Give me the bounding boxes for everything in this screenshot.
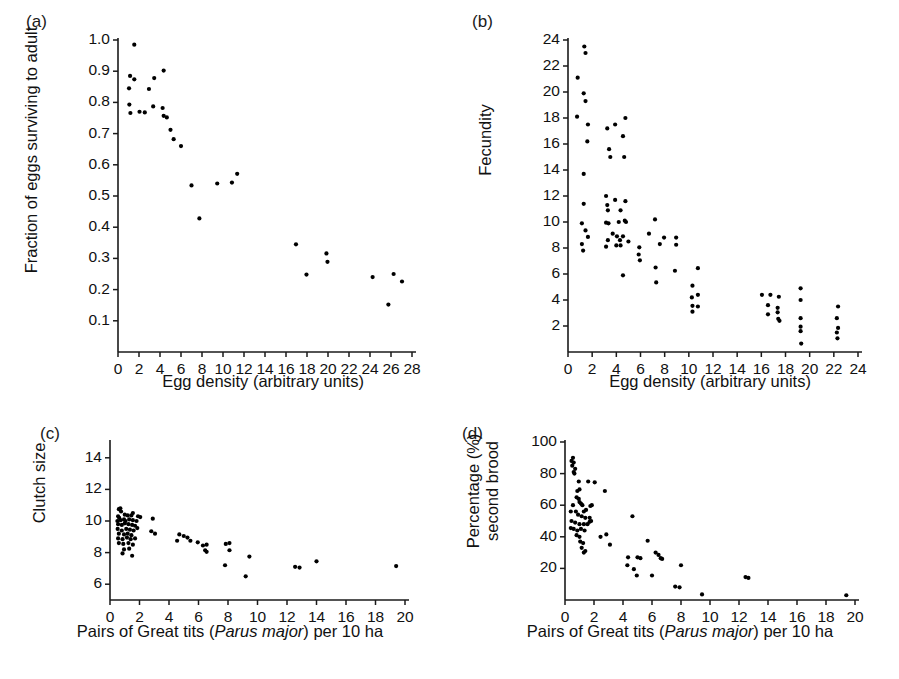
data-point [586, 122, 590, 126]
data-point [658, 242, 662, 246]
data-point [579, 527, 583, 531]
data-point [673, 269, 677, 273]
data-point [768, 293, 772, 297]
data-point [635, 573, 639, 577]
data-point [777, 295, 781, 299]
data-point [205, 543, 209, 547]
data-point [188, 539, 192, 543]
data-point [128, 111, 132, 115]
data-point [586, 479, 590, 483]
data-point [583, 99, 587, 103]
data-point [128, 528, 132, 532]
data-point [653, 217, 657, 221]
data-point [138, 515, 142, 519]
data-point [201, 543, 205, 547]
y-tick-label: 2 [496, 316, 560, 334]
data-point [135, 526, 139, 530]
data-point [580, 242, 584, 246]
data-point [618, 238, 622, 242]
y-tick-label: 20 [496, 82, 560, 100]
data-point [130, 554, 134, 558]
y-tick-label: 0.8 [46, 92, 110, 110]
data-point [122, 547, 126, 551]
data-point [777, 319, 781, 323]
data-point [297, 566, 301, 570]
data-point [605, 126, 609, 130]
data-point [573, 520, 577, 524]
data-point [120, 528, 124, 532]
y-tick-label: 8 [496, 238, 560, 256]
data-point [598, 535, 602, 539]
data-point [638, 556, 642, 560]
data-point [799, 341, 803, 345]
data-point [650, 573, 654, 577]
data-point [766, 312, 770, 316]
data-point [577, 535, 581, 539]
y-axis-label: Clutch size [30, 388, 49, 578]
data-point [625, 563, 629, 567]
data-point [223, 563, 227, 567]
data-point [177, 532, 181, 536]
data-points [575, 44, 840, 345]
panel-c: (c)6810121402468101214161820Clutch sizeP… [0, 400, 460, 679]
data-points [115, 506, 398, 578]
data-point [582, 44, 586, 48]
data-point [582, 522, 586, 526]
data-point [185, 535, 189, 539]
data-point [623, 199, 627, 203]
data-point [569, 509, 573, 513]
data-point [293, 565, 297, 569]
data-point [799, 286, 803, 290]
data-point [623, 116, 627, 120]
y-tick-label: 0.9 [46, 61, 110, 79]
data-point [126, 522, 130, 526]
data-point [630, 514, 634, 518]
data-point [585, 139, 589, 143]
data-point [835, 330, 839, 334]
data-point [196, 540, 200, 544]
data-point [581, 541, 585, 545]
data-point [161, 106, 165, 110]
data-point [606, 221, 610, 225]
data-point [182, 534, 186, 538]
y-tick-label: 6 [496, 264, 560, 282]
y-tick-label: 0.3 [46, 248, 110, 266]
data-point [613, 122, 617, 126]
data-point [580, 503, 584, 507]
panel-b: (b)2468101214161820222402468101214161820… [450, 0, 899, 400]
data-point [696, 293, 700, 297]
data-point [132, 43, 136, 47]
data-point [603, 489, 607, 493]
data-point [576, 76, 580, 80]
data-point [197, 216, 201, 220]
data-point [575, 528, 579, 532]
data-point [581, 249, 585, 253]
data-point [607, 147, 611, 151]
data-point [618, 208, 622, 212]
data-point [117, 532, 121, 536]
data-point [662, 236, 666, 240]
data-point [205, 550, 209, 554]
data-point [776, 306, 780, 310]
data-point [637, 245, 641, 249]
data-point [230, 180, 234, 184]
data-point [621, 234, 625, 238]
data-point [582, 91, 586, 95]
data-point [586, 235, 590, 239]
data-point [615, 234, 619, 238]
data-point [294, 242, 298, 246]
y-tick-label: 0.7 [46, 124, 110, 142]
data-point [654, 265, 658, 269]
data-point [582, 202, 586, 206]
data-point [314, 559, 318, 563]
data-point [132, 77, 136, 81]
data-point [244, 574, 248, 578]
data-point [604, 194, 608, 198]
data-point [674, 243, 678, 247]
data-point [126, 532, 130, 536]
data-point [129, 513, 133, 517]
data-point [582, 528, 586, 532]
data-point [570, 464, 574, 468]
data-point [143, 110, 147, 114]
data-point [608, 543, 612, 547]
